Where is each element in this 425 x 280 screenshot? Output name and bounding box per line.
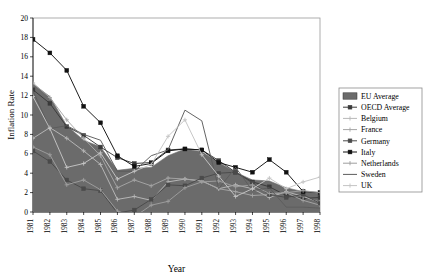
x-tick-label: 1986 [111,219,119,234]
legend-swatch-marker [348,139,352,143]
legend-label: OECD Average [361,103,410,112]
data-point [48,101,52,105]
y-tick-label: 16 [21,52,29,61]
data-point [166,183,170,187]
data-point [132,208,136,212]
data-point [234,170,238,174]
data-point [82,104,86,108]
x-tick-label: 1990 [179,219,187,234]
data-point [99,145,103,149]
y-tick-label: 0 [24,208,28,217]
y-tick-label: 12 [21,91,29,100]
data-point [318,201,322,205]
data-point [48,51,52,55]
x-tick-label: 1987 [128,219,136,234]
x-tick-label: 1996 [280,219,288,234]
x-tick-label: 1995 [263,219,271,234]
data-point [267,158,271,162]
data-point [251,170,255,174]
x-tick-label: 1991 [196,219,204,234]
y-tick-label: 2 [24,188,28,197]
chart-legend: EU AverageOECD AverageBelgiumFranceGerma… [339,88,422,192]
x-tick-label: 1992 [213,219,221,234]
legend-swatch-marker [348,150,352,154]
x-tick-label: 1989 [162,219,170,234]
x-tick-label: 1998 [314,219,322,234]
data-point [217,161,221,165]
data-point [99,121,103,125]
legend-label: Sweden [361,170,386,179]
x-tick-label: 1985 [95,219,103,234]
x-tick-label: 1988 [145,219,153,234]
data-point [48,160,52,164]
y-tick-label: 18 [21,33,29,42]
x-tick-label: 1994 [246,219,254,234]
legend-label: UK [361,181,373,190]
y-tick-label: 8 [24,130,28,139]
x-axis: 1981198219831984198519861987198819891990… [27,212,322,233]
y-tick-label: 4 [24,169,28,178]
series-layer [31,37,322,219]
legend-label: Germany [361,137,390,146]
data-point [82,187,86,191]
data-point [149,197,153,201]
y-tick-label: 20 [21,14,29,23]
legend-label: Netherlands [361,159,399,168]
inflation-rate-chart: 02468101214161820Inflation Rate198119821… [0,0,425,280]
data-point [65,178,69,182]
x-axis-title: Year [168,264,186,274]
chart-canvas: 02468101214161820Inflation Rate198119821… [0,0,425,280]
data-point [132,165,136,169]
y-tick-label: 6 [24,149,28,158]
data-point [200,176,204,180]
data-point [31,37,35,41]
legend-label: Belgium [361,114,388,123]
y-tick-label: 10 [21,111,29,120]
legend-label: Italy [361,148,375,157]
data-point [318,196,322,200]
data-point [183,147,187,151]
data-point [31,149,35,153]
x-tick-label: 1982 [44,219,52,234]
legend-label: EU Average [361,92,399,101]
x-tick-label: 1981 [27,219,35,234]
data-point [65,68,69,72]
x-tick-label: 1984 [78,219,86,234]
x-tick-label: 1997 [297,219,305,234]
legend-swatch-marker [348,105,352,109]
y-tick-label: 14 [21,72,29,81]
data-point [284,196,288,200]
legend-swatch-area [343,93,357,99]
y-axis-title: Inflation Rate [6,90,16,140]
data-point [284,170,288,174]
data-point [116,154,120,158]
x-tick-label: 1983 [61,219,69,234]
legend-label: France [361,125,383,134]
y-axis: 02468101214161820 [21,14,34,217]
x-tick-label: 1993 [230,219,238,234]
